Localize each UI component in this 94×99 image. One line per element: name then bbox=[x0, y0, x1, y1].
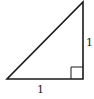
right-triangle-diagram: 1 1 bbox=[0, 0, 94, 99]
horizontal-leg-label: 1 bbox=[37, 83, 44, 96]
right-angle-marker bbox=[71, 67, 83, 79]
vertical-leg-label: 1 bbox=[86, 36, 93, 49]
